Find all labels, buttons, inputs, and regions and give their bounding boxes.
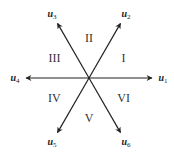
diagram-canvas: u1u2u3u4u5u6 IIIIIIIVVVI <box>0 0 174 156</box>
sector-label-III: III <box>48 51 60 65</box>
vector-label-u2: u2 <box>121 8 131 21</box>
vector-label-u5: u5 <box>47 136 57 149</box>
vector-label-u4: u4 <box>10 72 20 85</box>
vector-label-u1: u1 <box>158 72 168 85</box>
space-vector-diagram: u1u2u3u4u5u6 IIIIIIIVVVI <box>0 0 174 156</box>
vector-label-subscript: 1 <box>164 77 168 85</box>
vector-label-u3: u3 <box>47 8 57 21</box>
sector-label-I: I <box>122 51 126 65</box>
sector-label-V: V <box>85 111 94 125</box>
vector-label-subscript: 5 <box>53 141 57 149</box>
vector-arrow-u6 <box>89 78 121 133</box>
vector-label-subscript: 3 <box>53 13 57 21</box>
vector-label-subscript: 2 <box>127 13 131 21</box>
sector-label-II: II <box>85 31 93 45</box>
vector-label-u6: u6 <box>121 136 131 149</box>
sector-label-IV: IV <box>48 91 61 105</box>
sector-label-VI: VI <box>117 91 130 105</box>
vector-label-subscript: 6 <box>127 141 131 149</box>
vector-arrow-u2 <box>89 23 121 78</box>
vector-label-subscript: 4 <box>16 77 20 85</box>
